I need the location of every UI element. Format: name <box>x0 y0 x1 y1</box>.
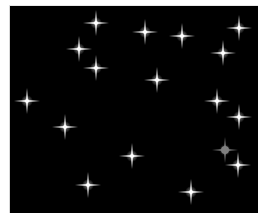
star[interactable] <box>210 40 236 66</box>
star-core <box>180 34 184 38</box>
star-core <box>221 146 229 154</box>
star[interactable] <box>204 88 230 114</box>
odd-star[interactable] <box>212 137 238 163</box>
star-core <box>236 163 240 167</box>
star[interactable] <box>83 55 109 81</box>
star-core <box>86 183 90 187</box>
star[interactable] <box>83 10 109 36</box>
star-core <box>94 66 98 70</box>
star[interactable] <box>75 172 101 198</box>
star-core <box>237 26 241 30</box>
star[interactable] <box>144 67 170 93</box>
star[interactable] <box>226 15 252 41</box>
star[interactable] <box>178 179 204 205</box>
star-core <box>155 78 159 82</box>
game-board[interactable] <box>9 5 258 213</box>
sparkle-field <box>10 6 258 213</box>
star-core <box>63 125 67 129</box>
star-core <box>130 154 134 158</box>
star[interactable] <box>225 152 251 178</box>
star[interactable] <box>132 19 158 45</box>
star-core <box>237 115 241 119</box>
star[interactable] <box>66 36 92 62</box>
star[interactable] <box>52 114 78 140</box>
star-core <box>215 99 219 103</box>
star-core <box>221 51 225 55</box>
star[interactable] <box>119 143 145 169</box>
star[interactable] <box>226 104 252 130</box>
star[interactable] <box>14 88 40 114</box>
star-core <box>94 21 98 25</box>
star-core <box>189 190 193 194</box>
star-core <box>77 47 81 51</box>
star-core <box>25 99 29 103</box>
star-core <box>143 30 147 34</box>
star[interactable] <box>169 23 195 49</box>
